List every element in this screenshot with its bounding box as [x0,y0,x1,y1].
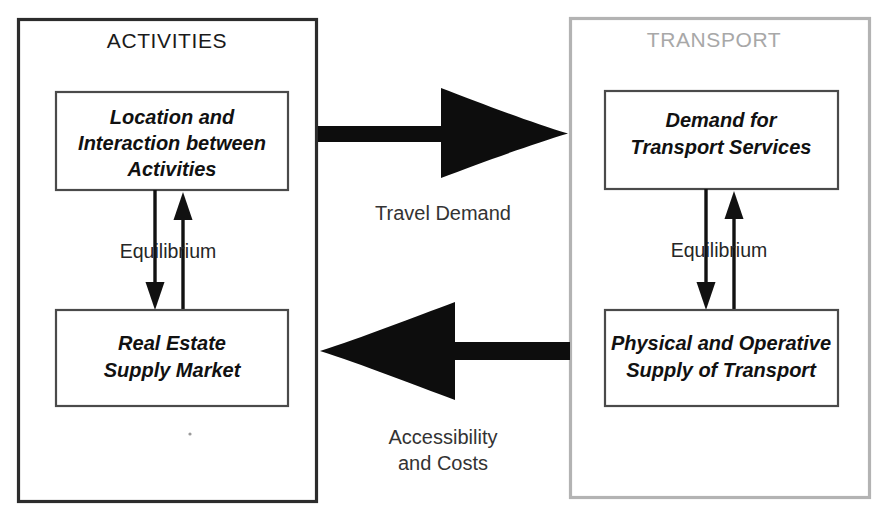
box-location-interaction-line-2: Interaction between [78,132,266,154]
panel-activities-title: ACTIVITIES [107,29,227,52]
box-physical-operative-supply-line-2: Supply of Transport [626,359,817,381]
box-real-estate-line-2: Supply Market [104,359,242,381]
panel-transport: TRANSPORT Demand for Transport Services … [571,19,870,498]
box-demand-transport-services: Demand for Transport Services [605,91,838,189]
box-real-estate-border [56,310,288,406]
accessibility-and-costs-arrow [320,302,570,400]
accessibility-and-costs-label-line-2: and Costs [398,452,488,474]
box-location-interaction-line-3: Activities [127,158,217,180]
box-real-estate: Real Estate Supply Market [56,310,288,406]
travel-demand-label-line-1: Travel Demand [375,202,511,224]
diagram-canvas: ACTIVITIES Location and Interaction betw… [0,0,881,518]
travel-demand-arrow [318,88,568,178]
scan-speck [188,432,191,435]
flow-accessibility-and-costs: Accessibility and Costs [320,302,570,474]
equilibrium-label-activities: Equilibrium [120,240,216,262]
box-physical-operative-supply-border [605,310,838,406]
flow-travel-demand: Travel Demand [318,88,568,224]
system-diagram: ACTIVITIES Location and Interaction betw… [0,0,881,518]
box-demand-transport-services-line-2: Transport Services [631,136,812,158]
box-physical-operative-supply: Physical and Operative Supply of Transpo… [605,310,838,406]
box-location-interaction-line-1: Location and [110,106,235,128]
box-demand-transport-services-line-1: Demand for [665,109,777,131]
box-location-interaction: Location and Interaction between Activit… [56,92,288,190]
panel-activities: ACTIVITIES Location and Interaction betw… [19,20,317,502]
box-real-estate-line-1: Real Estate [118,332,226,354]
accessibility-and-costs-label-line-1: Accessibility [389,426,498,448]
equilibrium-label-transport: Equilibrium [671,239,767,261]
box-physical-operative-supply-line-1: Physical and Operative [611,332,831,354]
panel-transport-title: TRANSPORT [647,28,782,51]
